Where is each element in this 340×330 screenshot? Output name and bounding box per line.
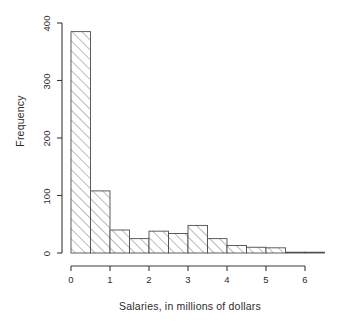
y-axis bbox=[57, 23, 62, 253]
y-tick-label-300: 300 bbox=[41, 66, 52, 96]
x-tick-label-0: 0 bbox=[61, 274, 81, 285]
histogram-bar bbox=[110, 230, 130, 253]
histogram-bar bbox=[286, 252, 306, 253]
x-tick-label-1: 1 bbox=[100, 274, 120, 285]
y-tick-label-200: 200 bbox=[41, 124, 52, 154]
histogram-bar bbox=[91, 191, 111, 253]
x-axis bbox=[71, 266, 305, 271]
histogram-bars bbox=[71, 32, 325, 253]
histogram-figure: 0 100 200 300 400 0 1 2 3 4 5 6 Frequenc… bbox=[0, 0, 340, 330]
y-tick-label-100: 100 bbox=[41, 181, 52, 211]
histogram-plot-area bbox=[0, 0, 340, 330]
histogram-bar bbox=[130, 239, 150, 253]
x-tick-label-2: 2 bbox=[139, 274, 159, 285]
histogram-bar bbox=[71, 32, 91, 253]
y-axis-title: Frequency bbox=[14, 71, 26, 171]
histogram-bar bbox=[149, 231, 169, 253]
y-tick-label-0: 0 bbox=[41, 239, 52, 269]
histogram-bar bbox=[188, 225, 208, 253]
histogram-bar bbox=[247, 247, 267, 253]
histogram-bar bbox=[208, 239, 228, 253]
x-tick-label-3: 3 bbox=[178, 274, 198, 285]
x-tick-label-5: 5 bbox=[256, 274, 276, 285]
y-tick-label-400: 400 bbox=[41, 9, 52, 39]
histogram-bar bbox=[266, 248, 286, 253]
x-tick-label-6: 6 bbox=[295, 274, 315, 285]
histogram-bar bbox=[305, 252, 325, 253]
histogram-bar bbox=[227, 246, 247, 253]
x-axis-title: Salaries, in millions of dollars bbox=[70, 300, 310, 312]
histogram-bar bbox=[169, 233, 189, 253]
x-tick-label-4: 4 bbox=[217, 274, 237, 285]
